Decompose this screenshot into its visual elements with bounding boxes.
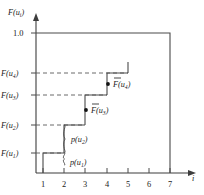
axes-group — [33, 13, 196, 176]
step-function-group — [36, 33, 170, 173]
x-label-1: 1 — [41, 180, 45, 189]
y-label-f-u2: F(u2) — [0, 121, 19, 131]
y-axis-arrowhead — [33, 13, 39, 21]
brace-group — [63, 125, 65, 165]
dot-fbar-u3 — [84, 108, 88, 112]
annotation-p-u2: p(u2) — [70, 135, 88, 145]
step-segment-1 — [43, 153, 64, 173]
x-label-5: 5 — [126, 180, 130, 189]
y-tick-group — [31, 33, 36, 153]
brace-p-u1 — [63, 153, 65, 165]
y-label-f-u4: F(u4) — [0, 69, 19, 79]
x-label-4: 4 — [105, 180, 110, 189]
y-label-f-u3: F(u3) — [0, 91, 19, 101]
annotation-p-u1: p(u1) — [69, 158, 87, 168]
step-segment-top — [36, 33, 170, 173]
y-axis-title: F(ui) — [7, 8, 24, 18]
x-axis-title: i — [192, 174, 195, 183]
x-label-6: 6 — [147, 180, 151, 189]
dot-fbar-u4 — [106, 82, 110, 86]
annotation-fbar-u3: F(u3) — [90, 106, 109, 116]
y-label-f-u1: F(u1) — [0, 149, 19, 159]
x-label-2: 2 — [62, 180, 66, 189]
step-cdf-chart: F(ui) i 1.0 F(u4) F(u3) F(u2) F(u1) 1 2 … — [0, 0, 204, 195]
x-label-7: 7 — [168, 180, 172, 189]
figure-container: F(ui) i 1.0 F(u4) F(u3) F(u2) F(u1) 1 2 … — [0, 0, 204, 195]
x-tick-group — [43, 168, 170, 173]
y-label-1p0: 1.0 — [13, 29, 23, 38]
x-label-3: 3 — [83, 180, 87, 189]
annotation-fbar-u4: F(u4) — [112, 80, 131, 90]
